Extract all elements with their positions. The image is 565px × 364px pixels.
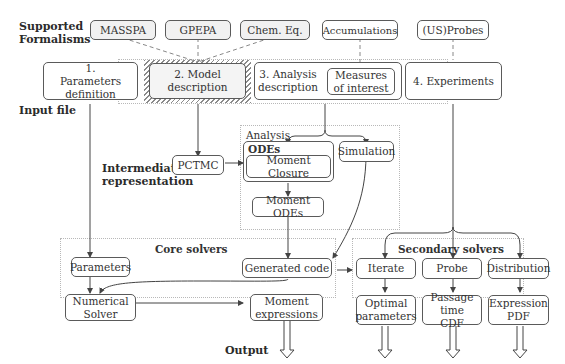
generated-code-node: Generated code: [242, 258, 332, 278]
input-file-label: Input file: [19, 104, 76, 117]
formalism-accumulations: Accumulations: [322, 20, 398, 40]
formalism-chem-eq: Chem. Eq.: [240, 20, 310, 40]
core-solvers-title: Core solvers: [155, 243, 227, 255]
probe-node: Probe: [422, 258, 482, 279]
analysis-description-label: 3. Analysis description: [257, 68, 319, 94]
secondary-solvers-title: Secondary solvers: [398, 243, 504, 255]
section-experiments: 4. Experiments: [405, 62, 502, 100]
parameters-node: Parameters: [71, 257, 130, 277]
passage-time-cdf-node: Passage time CDF: [422, 295, 482, 325]
formalism-us-probes: (US)Probes: [417, 20, 489, 40]
iterate-node: Iterate: [356, 258, 416, 279]
optimal-parameters-node: Optimal parameters: [356, 295, 416, 325]
section-model-description: 2. Model description: [149, 63, 246, 99]
formalism-masspa: MASSPA: [90, 20, 156, 40]
simulation-node: Simulation: [339, 141, 394, 162]
pctmc-node: PCTMC: [172, 155, 224, 175]
expression-pdf-node: Expression PDF: [488, 295, 549, 325]
moment-expressions-node: Moment expressions: [250, 294, 323, 321]
analysis-title: Analysis: [246, 129, 290, 141]
distribution-node: Distribution: [488, 258, 549, 279]
formalism-gpepa: GPEPA: [165, 20, 231, 40]
moment-closure-node: Moment Closure: [246, 155, 331, 178]
moment-odes-node: Moment ODEs: [252, 197, 324, 217]
numerical-solver-node: Numerical Solver: [65, 294, 136, 321]
measures-of-interest: Measures of interest: [327, 68, 395, 95]
section-parameters-definition: 1. Parameters definition: [43, 62, 138, 100]
output-label: Output: [225, 344, 268, 357]
supported-formalisms-label: Supported Formalisms: [19, 20, 99, 46]
